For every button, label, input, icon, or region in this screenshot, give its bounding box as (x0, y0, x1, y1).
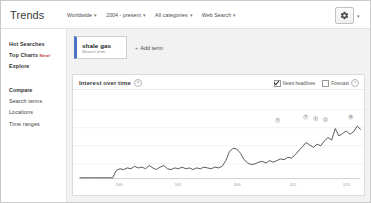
nav-category-label: All categories (155, 12, 188, 18)
sidebar-item-label: Locations (9, 109, 33, 115)
chart-line-shale-gas (80, 126, 361, 178)
sidebar-item-label: Search terms (9, 98, 42, 104)
nav-search-type-label: Web Search (202, 12, 231, 18)
main-content: shale gas Search term +Add term Interest… (67, 29, 370, 202)
chart-x-tick-label: 2007 (175, 183, 182, 187)
forecast-help-icon[interactable]: ? (351, 79, 359, 87)
chart-svg: 20052007200920112013 GFEDA (73, 90, 364, 195)
chevron-down-icon: ▾ (143, 13, 146, 18)
search-term-chip[interactable]: shale gas Search term (74, 36, 127, 59)
chevron-down-icon: ▾ (94, 13, 97, 18)
option-label: News headlines (283, 81, 315, 86)
card-header: Interest over time? News headlines Forec… (73, 75, 364, 90)
help-icon[interactable]: ? (134, 79, 142, 87)
interest-over-time-card: Interest over time? News headlines Forec… (72, 74, 365, 196)
chevron-down-icon: ▾ (190, 13, 193, 18)
sidebar-item-label: Explore (9, 63, 29, 69)
add-term-button[interactable]: +Add term (135, 45, 163, 51)
card-title: Interest over time? (79, 79, 142, 87)
search-term-type: Search term (82, 49, 126, 55)
checkbox-forecast[interactable] (322, 80, 329, 87)
news-marker-label: G (277, 118, 279, 122)
sidebar-item-label: Hot Searches (9, 41, 45, 47)
option-label: Forecast (331, 81, 349, 86)
chart-options: News headlines Forecast ? (274, 79, 359, 87)
google-trends-page: Trends Worldwide▾ 2004 - present▾ All ca… (0, 0, 371, 203)
sidebar-item-explore[interactable]: Explore (1, 60, 66, 71)
chart-news-markers[interactable]: GFEDA (276, 115, 353, 123)
news-marker-label: D (324, 118, 326, 122)
sidebar-item-top-charts[interactable]: Top ChartsNew! (1, 49, 66, 60)
sidebar-item-time-ranges[interactable]: Time ranges (1, 118, 66, 129)
news-marker-label: A (350, 115, 352, 119)
settings-group: ▾ (335, 7, 360, 24)
top-nav: Worldwide▾ 2004 - present▾ All categorie… (67, 12, 236, 18)
news-marker-label: E (315, 117, 317, 121)
gear-icon (340, 11, 349, 20)
plus-icon: + (135, 45, 138, 51)
option-forecast[interactable]: Forecast ? (322, 79, 359, 87)
card-title-text: Interest over time (79, 80, 131, 86)
chevron-down-icon: ▾ (233, 13, 236, 18)
chart-x-tick-label: 2005 (116, 183, 123, 187)
checkbox-news-headlines[interactable] (274, 80, 281, 87)
sidebar-item-search-terms[interactable]: Search terms (1, 96, 66, 107)
sidebar: Hot Searches Top ChartsNew! Explore Comp… (1, 29, 67, 202)
terms-row: shale gas Search term +Add term (67, 29, 370, 72)
nav-category-filter[interactable]: All categories▾ (155, 12, 193, 18)
sidebar-spacer (1, 72, 66, 85)
nav-region-label: Worldwide (67, 12, 92, 18)
news-marker-label: F (305, 115, 307, 119)
chart-x-tick-label: 2011 (290, 183, 297, 187)
settings-button[interactable] (335, 7, 354, 24)
app-logo[interactable]: Trends (10, 9, 44, 21)
interest-chart[interactable]: 20052007200920112013 GFEDA (73, 90, 364, 195)
option-news-headlines[interactable]: News headlines (274, 80, 315, 87)
search-term-name: shale gas (82, 42, 126, 49)
nav-region-filter[interactable]: Worldwide▾ (67, 12, 97, 18)
new-badge: New! (40, 53, 51, 58)
sidebar-item-locations[interactable]: Locations (1, 107, 66, 118)
chart-gridlines (73, 110, 364, 164)
nav-search-type-filter[interactable]: Web Search▾ (202, 12, 237, 18)
sidebar-section-compare: Compare (1, 85, 66, 96)
sidebar-item-hot-searches[interactable]: Hot Searches (1, 38, 66, 49)
sidebar-item-label: Time ranges (9, 121, 40, 127)
nav-time-filter[interactable]: 2004 - present▾ (106, 12, 146, 18)
chart-x-tick-label: 2009 (234, 183, 241, 187)
chart-x-tick-labels: 20052007200920112013 (116, 183, 351, 187)
top-bar: Trends Worldwide▾ 2004 - present▾ All ca… (1, 1, 370, 29)
nav-time-label: 2004 - present (106, 12, 141, 18)
chart-x-tick-label: 2013 (343, 183, 350, 187)
sidebar-item-label: Top Charts (9, 52, 38, 58)
add-term-label: Add term (140, 45, 163, 51)
settings-chevron-down-icon[interactable]: ▾ (357, 13, 360, 19)
